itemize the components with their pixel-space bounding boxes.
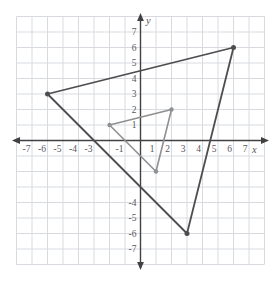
y-tick-label: 6 xyxy=(132,43,137,53)
x-tick-label: 2 xyxy=(165,144,170,154)
y-axis-bottom-arrow-icon xyxy=(137,262,144,270)
x-axis-letter: x xyxy=(251,144,257,155)
y-axis-letter: y xyxy=(145,15,151,26)
y-tick-label: -5 xyxy=(129,213,137,223)
small-triangle-vertex-dot xyxy=(107,123,111,127)
y-tick-label: 2 xyxy=(132,105,137,115)
y-tick-label: 1 xyxy=(132,120,137,130)
x-tick-label: 3 xyxy=(181,144,186,154)
large-triangle-vertex-dot xyxy=(185,231,190,236)
x-tick-label: 7 xyxy=(243,144,248,154)
y-tick-label: -6 xyxy=(129,229,137,239)
x-tick-label: -7 xyxy=(23,144,31,154)
x-tick-label: 4 xyxy=(196,144,201,154)
y-tick-label: -7 xyxy=(129,244,137,254)
large-triangle-vertex-dot xyxy=(45,92,50,97)
x-tick-label: -1 xyxy=(116,144,124,154)
x-tick-label: -6 xyxy=(38,144,46,154)
y-tick-label: 5 xyxy=(132,58,137,68)
small-triangle-vertex-dot xyxy=(154,169,158,173)
x-tick-label: 5 xyxy=(212,144,217,154)
x-tick-label: 1 xyxy=(150,144,155,154)
large-triangle-vertex-dot xyxy=(231,45,236,50)
y-tick-label: -4 xyxy=(129,198,137,208)
x-tick-label: -5 xyxy=(54,144,62,154)
x-tick-label: 6 xyxy=(227,144,232,154)
y-tick-label: 4 xyxy=(132,74,137,84)
x-tick-label: -4 xyxy=(69,144,77,154)
y-tick-label: 3 xyxy=(132,89,137,99)
y-tick-label: 7 xyxy=(132,27,137,37)
x-tick-label: -3 xyxy=(85,144,93,154)
coordinate-plane-figure: xy-7-6-5-4-3-112345677654321-4-5-6-7 xyxy=(0,0,279,282)
coordinate-grid: xy-7-6-5-4-3-112345677654321-4-5-6-7 xyxy=(0,0,279,282)
small-triangle-vertex-dot xyxy=(169,107,173,111)
